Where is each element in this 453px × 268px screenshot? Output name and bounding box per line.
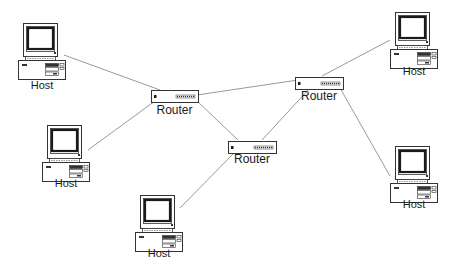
link-router-a-router-b xyxy=(197,80,298,95)
network-diagram: RouterRouterRouterHostHostHostHostHost xyxy=(0,0,453,268)
host-label: Host xyxy=(129,247,189,259)
link-host-1-router-a xyxy=(64,55,160,90)
router-label: Router xyxy=(145,104,205,116)
link-host-4-router-b xyxy=(322,40,390,76)
computer-icon xyxy=(18,23,68,85)
router-label: Router xyxy=(222,153,282,165)
host-label: Host xyxy=(12,79,72,91)
router-label: Router xyxy=(289,90,349,102)
host-label: Host xyxy=(36,177,96,189)
host-label: Host xyxy=(384,65,444,77)
host-label: Host xyxy=(384,198,444,210)
